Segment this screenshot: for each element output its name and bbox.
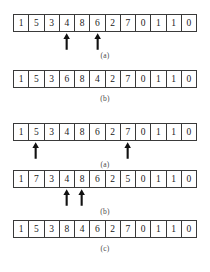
array-cell: 1 — [14, 124, 29, 140]
array-cell: 1 — [167, 71, 182, 87]
array-cell: 8 — [75, 71, 90, 87]
array-cell: 4 — [60, 171, 75, 187]
array-cell: 3 — [45, 71, 60, 87]
array-cell: 2 — [106, 15, 121, 31]
array-cell: 4 — [60, 15, 75, 31]
array-cell: 4 — [60, 124, 75, 140]
array-cell: 5 — [29, 124, 44, 140]
array-row: 153846270110 — [13, 220, 197, 238]
array-cell: 5 — [29, 221, 44, 237]
array-cell: 6 — [90, 15, 105, 31]
array-figure: 173486250110(b) — [0, 170, 210, 216]
array-swap-diagram: 153486270110(a)153684270110(b)1534862701… — [0, 0, 210, 272]
array-cell: 7 — [121, 71, 136, 87]
array-cell: 0 — [182, 124, 196, 140]
array-cell: 8 — [60, 221, 75, 237]
array-cell: 8 — [75, 124, 90, 140]
array-cell: 3 — [45, 15, 60, 31]
array-cell: 5 — [121, 171, 136, 187]
array-cell: 0 — [182, 221, 196, 237]
array-cell: 5 — [29, 15, 44, 31]
array-cell: 1 — [14, 171, 29, 187]
pointer-arrow-icon — [28, 142, 43, 159]
array-cell: 1 — [167, 15, 182, 31]
array-cell: 1 — [151, 15, 166, 31]
array-figure: 153846270110(c) — [0, 220, 210, 253]
array-cell: 1 — [151, 124, 166, 140]
array-cell: 1 — [14, 221, 29, 237]
figure-label: (b) — [0, 207, 210, 216]
figure-label: (a) — [0, 51, 210, 60]
array-cell: 7 — [121, 221, 136, 237]
array-figure: 153486270110(a) — [0, 123, 210, 169]
array-cell: 0 — [136, 124, 151, 140]
array-cell: 1 — [14, 15, 29, 31]
array-cell: 0 — [182, 15, 196, 31]
arrow-strip — [13, 239, 197, 243]
array-cell: 1 — [151, 171, 166, 187]
array-cell: 3 — [45, 124, 60, 140]
array-figure: 153684270110(b) — [0, 70, 210, 103]
array-row: 173486250110 — [13, 170, 197, 188]
array-cell: 1 — [151, 71, 166, 87]
array-cell: 1 — [151, 221, 166, 237]
pointer-arrow-icon — [59, 33, 74, 50]
array-cell: 0 — [136, 171, 151, 187]
array-cell: 1 — [14, 71, 29, 87]
array-cell: 0 — [136, 71, 151, 87]
array-row: 153684270110 — [13, 70, 197, 88]
arrow-strip — [13, 89, 197, 93]
pointer-arrow-icon — [74, 189, 89, 206]
array-cell: 6 — [90, 124, 105, 140]
arrow-strip — [13, 33, 197, 50]
array-cell: 6 — [90, 171, 105, 187]
arrow-strip — [13, 142, 197, 159]
pointer-arrow-icon — [120, 142, 135, 159]
figure-label: (c) — [0, 244, 210, 253]
array-cell: 2 — [106, 171, 121, 187]
array-figure: 153486270110(a) — [0, 14, 210, 60]
array-row: 153486270110 — [13, 14, 197, 32]
array-cell: 4 — [75, 221, 90, 237]
array-cell: 1 — [167, 171, 182, 187]
figure-label: (a) — [0, 160, 210, 169]
array-cell: 1 — [167, 221, 182, 237]
array-cell: 7 — [121, 124, 136, 140]
arrow-strip — [13, 189, 197, 206]
array-cell: 1 — [167, 124, 182, 140]
array-row: 153486270110 — [13, 123, 197, 141]
array-cell: 2 — [106, 221, 121, 237]
array-cell: 0 — [182, 71, 196, 87]
array-cell: 2 — [106, 124, 121, 140]
array-cell: 5 — [29, 71, 44, 87]
figure-label: (b) — [0, 94, 210, 103]
array-cell: 6 — [60, 71, 75, 87]
array-cell: 8 — [75, 15, 90, 31]
array-cell: 2 — [106, 71, 121, 87]
array-cell: 7 — [121, 15, 136, 31]
array-cell: 4 — [90, 71, 105, 87]
array-cell: 8 — [75, 171, 90, 187]
array-cell: 0 — [182, 171, 196, 187]
pointer-arrow-icon — [59, 189, 74, 206]
array-cell: 3 — [45, 221, 60, 237]
array-cell: 0 — [136, 221, 151, 237]
array-cell: 0 — [136, 15, 151, 31]
pointer-arrow-icon — [90, 33, 105, 50]
array-cell: 3 — [45, 171, 60, 187]
array-cell: 6 — [90, 221, 105, 237]
array-cell: 7 — [29, 171, 44, 187]
